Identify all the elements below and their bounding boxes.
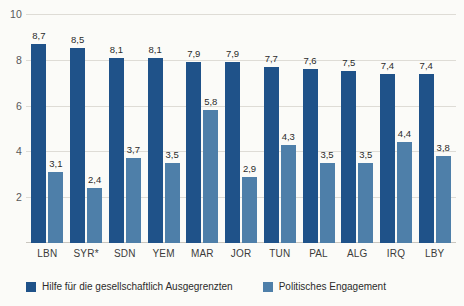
- bar-value-label: 3,7: [127, 144, 140, 155]
- x-axis-label: JOR: [222, 248, 261, 259]
- bar[interactable]: 4,3: [281, 145, 296, 243]
- bar[interactable]: 7,4: [419, 74, 434, 243]
- bar-value-label: 7,9: [187, 48, 200, 59]
- bar[interactable]: 3,1: [48, 172, 63, 243]
- bar-value-label: 7,7: [265, 53, 278, 64]
- bar-group: 7,74,3: [260, 14, 299, 243]
- bar[interactable]: 3,5: [358, 163, 373, 243]
- bar-group: 7,63,5: [299, 14, 338, 243]
- bar-value-label: 7,4: [420, 60, 433, 71]
- bar-value-label: 4,4: [398, 128, 411, 139]
- x-axis-labels: LBNSYR*SDNYEMMARJORTUNPALALGIRQLBY: [26, 248, 456, 259]
- bar-value-label: 7,4: [381, 60, 394, 71]
- bar[interactable]: 7,9: [186, 62, 201, 243]
- y-axis-tick-label: 2: [0, 191, 22, 203]
- bar-value-label: 7,6: [303, 55, 316, 66]
- bar-value-label: 5,8: [204, 96, 217, 107]
- x-axis-label: TUN: [260, 248, 299, 259]
- bar-value-label: 8,1: [110, 44, 123, 55]
- bar[interactable]: 3,8: [436, 156, 451, 243]
- bar[interactable]: 7,5: [341, 71, 356, 243]
- x-axis-label: ALG: [338, 248, 377, 259]
- x-axis-label: IRQ: [377, 248, 416, 259]
- bar-group: 8,52,4: [67, 14, 106, 243]
- bar-value-label: 7,5: [342, 57, 355, 68]
- bar[interactable]: 7,9: [225, 62, 240, 243]
- bar-group: 8,13,7: [105, 14, 144, 243]
- bar-value-label: 8,1: [148, 44, 161, 55]
- x-axis-label: MAR: [183, 248, 222, 259]
- legend-label-0: Hilfe für die gesellschaftlich Ausgegren…: [42, 281, 233, 292]
- bar[interactable]: 2,4: [87, 188, 102, 243]
- x-axis-label: SYR*: [67, 248, 106, 259]
- bar[interactable]: 3,7: [126, 158, 141, 243]
- bar-group: 8,13,5: [144, 14, 183, 243]
- bar-value-label: 7,9: [226, 48, 239, 59]
- bar-value-label: 2,4: [88, 174, 101, 185]
- bar-group: 7,92,9: [222, 14, 261, 243]
- bar[interactable]: 8,1: [148, 58, 163, 243]
- legend-label-1: Politisches Engagement: [279, 281, 386, 292]
- legend-swatch-icon-1: [263, 282, 273, 292]
- bar-group: 8,73,1: [28, 14, 67, 243]
- y-axis-tick-label: 8: [0, 54, 22, 66]
- bar-value-label: 3,8: [437, 142, 450, 153]
- bar[interactable]: 8,1: [109, 58, 124, 243]
- bar-group: 7,43,8: [415, 14, 454, 243]
- bar-value-label: 3,5: [320, 149, 333, 160]
- bar-value-label: 8,5: [71, 34, 84, 45]
- bar-value-label: 8,7: [32, 30, 45, 41]
- bar-value-label: 3,5: [359, 149, 372, 160]
- bar-group: 7,95,8: [183, 14, 222, 243]
- bar-value-label: 3,1: [49, 158, 62, 169]
- legend-item-1[interactable]: Politisches Engagement: [263, 281, 386, 292]
- bar[interactable]: 7,4: [380, 74, 395, 243]
- bar[interactable]: 5,8: [203, 110, 218, 243]
- x-axis-label: SDN: [105, 248, 144, 259]
- bar-chart: 246810 8,73,18,52,48,13,78,13,57,95,87,9…: [0, 0, 464, 306]
- bar[interactable]: 4,4: [397, 142, 412, 243]
- bar-value-label: 2,9: [243, 163, 256, 174]
- legend-swatch-icon-0: [26, 282, 36, 292]
- bar[interactable]: 3,5: [165, 163, 180, 243]
- bar[interactable]: 8,5: [70, 48, 85, 243]
- bars-layer: 8,73,18,52,48,13,78,13,57,95,87,92,97,74…: [26, 14, 456, 243]
- bar-value-label: 4,3: [282, 131, 295, 142]
- y-axis-tick-label: 6: [0, 100, 22, 112]
- bar[interactable]: 8,7: [31, 44, 46, 243]
- bar-group: 7,44,4: [377, 14, 416, 243]
- x-axis-label: YEM: [144, 248, 183, 259]
- legend-item-0[interactable]: Hilfe für die gesellschaftlich Ausgegren…: [26, 281, 233, 292]
- bar-group: 7,53,5: [338, 14, 377, 243]
- y-axis-tick-label: 10: [0, 8, 22, 20]
- chart-legend: Hilfe für die gesellschaftlich Ausgegren…: [26, 281, 456, 292]
- x-axis-label: LBN: [28, 248, 67, 259]
- y-axis-tick-label: 4: [0, 145, 22, 157]
- bar-value-label: 3,5: [165, 149, 178, 160]
- x-axis-label: PAL: [299, 248, 338, 259]
- bar[interactable]: 3,5: [320, 163, 335, 243]
- bar[interactable]: 7,6: [303, 69, 318, 243]
- bar[interactable]: 7,7: [264, 67, 279, 243]
- x-axis-label: LBY: [415, 248, 454, 259]
- bar[interactable]: 2,9: [242, 177, 257, 243]
